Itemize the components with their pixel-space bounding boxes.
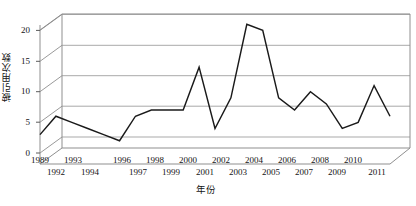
y-axis-title: 被引用次数 [2, 52, 18, 102]
y-tick-label-20: 20 [8, 25, 30, 35]
y-tick-label-5: 5 [8, 117, 30, 127]
x-tick-label-2005: 2005 [256, 167, 286, 177]
x-axis-title-text: 年份 [196, 182, 216, 196]
x-tick-label-2002: 2002 [206, 155, 236, 165]
x-tick-label-1998: 1998 [140, 155, 170, 165]
x-tick-label-2006: 2006 [272, 155, 302, 165]
plot-back-wall [62, 14, 410, 148]
x-tick-label-2001: 2001 [190, 167, 220, 177]
x-tick-label-1994: 1994 [75, 167, 105, 177]
x-axis-title: 年份 [0, 182, 416, 196]
x-tick-label-1993: 1993 [58, 155, 88, 165]
x-tick-label-2003: 2003 [223, 167, 253, 177]
x-tick-label-1996: 1996 [107, 155, 137, 165]
x-tick-label-2011: 2011 [362, 167, 392, 177]
x-tick-label-2004: 2004 [239, 155, 269, 165]
x-tick-label-1997: 1997 [123, 167, 153, 177]
citation-count-line-chart: 20 15 10 5 0 被引用次数 1989 1992 1993 1994 1… [0, 0, 416, 206]
x-tick-label-2009: 2009 [322, 167, 352, 177]
x-tick-label-2000: 2000 [173, 155, 203, 165]
x-tick-label-2010: 2010 [338, 155, 368, 165]
x-tick-label-1999: 1999 [156, 167, 186, 177]
x-tick-label-2007: 2007 [289, 167, 319, 177]
x-tick-label-1989: 1989 [25, 155, 55, 165]
x-tick-label-1992: 1992 [41, 167, 71, 177]
x-tick-label-2008: 2008 [305, 155, 335, 165]
y-tick-marks [36, 30, 40, 153]
